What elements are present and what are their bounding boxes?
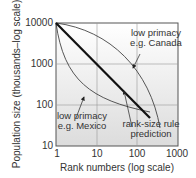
y-tick-100: 100: [36, 99, 53, 110]
mexico-label-2: e.g. Mexico: [58, 120, 107, 131]
ranksize-label-2: prediction: [130, 128, 171, 139]
chart: low primacy e.g. Canada low primacy e.g.…: [0, 0, 196, 178]
x-tick-10: 10: [91, 148, 103, 159]
x-tick-100: 100: [129, 148, 146, 159]
y-tick-10000: 10000: [25, 17, 53, 28]
y-tick-1000: 1000: [31, 58, 54, 69]
x-tick-1000: 1000: [166, 148, 189, 159]
x-axis-label: Rank numbers (log scale): [60, 162, 174, 173]
x-tick-1: 1: [54, 148, 60, 159]
canada-label-2: e.g. Canada: [130, 37, 182, 48]
y-axis-label: Population size (thousands–log scale): [11, 0, 22, 168]
y-tick-10: 10: [42, 140, 54, 151]
